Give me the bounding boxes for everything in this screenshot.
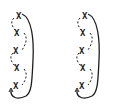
- node-x-1: X: [16, 12, 21, 21]
- loop-diagram-left: X X X X X: [4, 0, 54, 111]
- node-x-5: X: [13, 82, 18, 91]
- node-x-5: X: [79, 82, 84, 91]
- node-x-4: X: [80, 64, 85, 73]
- node-x-1: X: [82, 12, 87, 21]
- node-x-2: X: [80, 29, 85, 38]
- node-x-3: X: [79, 47, 84, 56]
- node-x-3: X: [13, 47, 18, 56]
- node-x-4: X: [14, 64, 19, 73]
- loop-arrows-right: [70, 0, 120, 111]
- node-x-2: X: [14, 29, 19, 38]
- loop-arrows-left: [4, 0, 54, 111]
- loop-diagram-right: X X X X X: [70, 0, 120, 111]
